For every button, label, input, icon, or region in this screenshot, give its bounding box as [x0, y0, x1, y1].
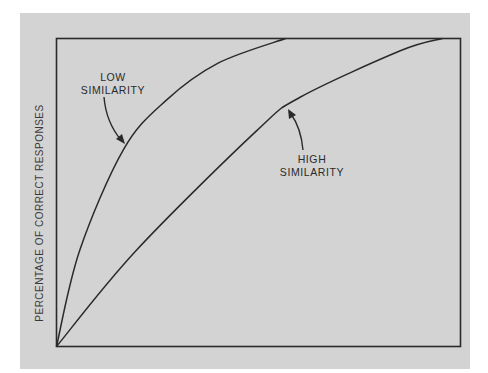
arrow-low-icon [104, 97, 121, 140]
label-low-line1: LOW [100, 71, 126, 83]
chart-svg: LOW SIMILARITY HIGH SIMILARITY PERCENTAG… [0, 0, 488, 373]
arrow-high-icon [291, 114, 303, 150]
arrowhead-high-icon [288, 109, 296, 119]
label-high-line1: HIGH [298, 153, 327, 165]
label-high-line2: SIMILARITY [280, 166, 344, 178]
label-low-line2: SIMILARITY [81, 84, 145, 96]
y-axis-label: PERCENTAGE OF CORRECT RESPONSES [34, 104, 45, 321]
